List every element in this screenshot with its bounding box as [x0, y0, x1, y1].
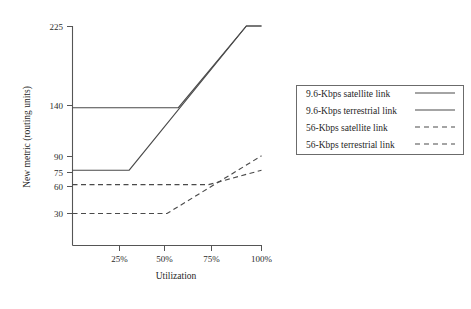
y-axis-title: New metric (routing units)	[22, 86, 33, 188]
x-tick-label-50: 50%	[156, 254, 173, 264]
y-tick-label-90: 90	[54, 152, 64, 162]
x-tick-label-25: 25%	[111, 254, 128, 264]
x-tick-label-100: 100%	[251, 254, 273, 264]
legend-label-56-terrestrial: 56-Kbps terrestrial link	[306, 140, 395, 150]
legend-label-96-terrestrial: 9.6-Kbps terrestrial link	[306, 106, 397, 116]
y-tick-label-60: 60	[54, 182, 64, 192]
chart-figure: 225 140 90 75 60 30 25% 50% 75% 100% Uti…	[0, 0, 471, 309]
y-tick-label-30: 30	[54, 209, 64, 219]
y-tick-label-225: 225	[50, 22, 64, 32]
legend: 9.6-Kbps satellite link 9.6-Kbps terrest…	[297, 86, 464, 155]
x-axis-title: Utilization	[156, 271, 197, 281]
y-tick-label-75: 75	[54, 168, 64, 178]
line-chart-svg: 225 140 90 75 60 30 25% 50% 75% 100% Uti…	[0, 0, 471, 309]
y-tick-label-140: 140	[50, 101, 64, 111]
x-tick-label-75: 75%	[203, 254, 220, 264]
legend-label-96-satellite: 9.6-Kbps satellite link	[306, 89, 390, 99]
legend-label-56-satellite: 56-Kbps satellite link	[306, 123, 388, 133]
